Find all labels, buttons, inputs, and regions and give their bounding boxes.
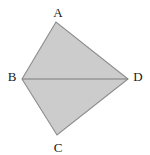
vertex-label-d: D [133, 70, 142, 83]
geometry-figure: A B C D [0, 0, 150, 155]
figure-canvas [0, 0, 150, 155]
vertex-label-b: B [8, 70, 17, 83]
vertex-label-c: C [54, 141, 63, 154]
vertex-label-a: A [53, 6, 62, 19]
